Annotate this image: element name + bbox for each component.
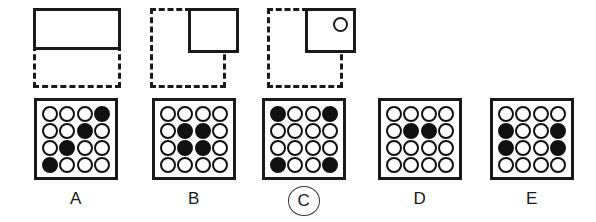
grid-cell: [550, 156, 568, 173]
dot-grid-b[interactable]: [152, 98, 236, 180]
grid-cell: [550, 105, 568, 122]
grid-cell: [420, 139, 438, 156]
grid-cell: [403, 122, 421, 139]
empty-dot-icon: [287, 106, 303, 122]
option-label-c: C: [288, 186, 321, 216]
dot-grid-d[interactable]: [378, 98, 462, 180]
grid-cell: [497, 105, 515, 122]
empty-dot-icon: [160, 140, 176, 156]
empty-dot-icon: [421, 140, 437, 156]
dot-grid-c[interactable]: [262, 98, 346, 180]
empty-dot-icon: [515, 123, 531, 139]
option-label-e: E: [519, 186, 545, 212]
empty-dot-icon: [322, 140, 338, 156]
grid-cell: [59, 122, 77, 139]
grid-cell: [159, 156, 177, 173]
empty-dot-icon: [77, 106, 93, 122]
empty-dot-icon: [42, 123, 58, 139]
empty-dot-icon: [533, 106, 549, 122]
grid-cell: [438, 156, 456, 173]
dot-grid-e[interactable]: [490, 98, 574, 180]
grid-cell: [177, 156, 195, 173]
filled-dot-icon: [403, 123, 419, 139]
grid-cell: [76, 139, 94, 156]
grid-cell: [420, 105, 438, 122]
empty-dot-icon: [59, 123, 75, 139]
empty-dot-icon: [59, 157, 75, 173]
answer-option-d[interactable]: D: [378, 98, 462, 212]
empty-dot-icon: [515, 157, 531, 173]
empty-dot-icon: [533, 140, 549, 156]
empty-dot-icon: [533, 157, 549, 173]
empty-dot-icon: [515, 140, 531, 156]
grid-cell: [497, 122, 515, 139]
option-label-d-wrapper: D: [378, 186, 462, 212]
grid-cell: [269, 105, 287, 122]
grid-cell: [322, 122, 340, 139]
filled-dot-icon: [270, 106, 286, 122]
filled-dot-icon: [550, 140, 566, 156]
grid-cell: [438, 105, 456, 122]
grid-cell: [550, 139, 568, 156]
empty-dot-icon: [533, 123, 549, 139]
grid-cell: [177, 122, 195, 139]
empty-dot-icon: [212, 140, 228, 156]
filled-dot-icon: [177, 123, 193, 139]
empty-dot-icon: [160, 157, 176, 173]
prompt-figures-row: [0, 0, 596, 95]
grid-cell: [41, 122, 59, 139]
filled-dot-icon: [59, 140, 75, 156]
grid-cell: [287, 139, 305, 156]
empty-dot-icon: [515, 106, 531, 122]
option-label-b: B: [181, 186, 207, 212]
answer-option-a[interactable]: A: [34, 98, 118, 212]
empty-dot-icon: [287, 123, 303, 139]
grid-cell: [385, 105, 403, 122]
filled-dot-icon: [498, 123, 514, 139]
prompt-figure-3: [267, 8, 343, 88]
empty-dot-icon: [305, 157, 321, 173]
filled-dot-icon: [177, 140, 193, 156]
empty-dot-icon: [42, 140, 58, 156]
grid-cell: [322, 139, 340, 156]
grid-cell: [269, 156, 287, 173]
empty-dot-icon: [177, 157, 193, 173]
empty-dot-icon: [438, 106, 454, 122]
grid-cell: [322, 105, 340, 122]
answer-option-c[interactable]: C: [262, 98, 346, 212]
prompt-figure-1: [33, 8, 121, 88]
answer-option-b[interactable]: B: [152, 98, 236, 212]
grid-cell: [177, 105, 195, 122]
answer-option-e[interactable]: E: [490, 98, 574, 212]
empty-dot-icon: [287, 140, 303, 156]
grid-cell: [515, 122, 533, 139]
grid-cell: [41, 139, 59, 156]
grid-cell: [59, 156, 77, 173]
empty-dot-icon: [438, 123, 454, 139]
empty-dot-icon: [195, 157, 211, 173]
grid-cell: [269, 139, 287, 156]
grid-cell: [420, 156, 438, 173]
grid-cell: [420, 122, 438, 139]
grid-cell: [94, 105, 112, 122]
empty-dot-icon: [94, 157, 110, 173]
empty-dot-icon: [212, 106, 228, 122]
option-label-e-wrapper: E: [490, 186, 574, 212]
grid-cell: [385, 139, 403, 156]
filled-dot-icon: [322, 106, 338, 122]
grid-cell: [287, 156, 305, 173]
filled-dot-icon: [94, 106, 110, 122]
empty-dot-icon: [403, 106, 419, 122]
empty-dot-icon: [177, 106, 193, 122]
filled-dot-icon: [42, 157, 58, 173]
grid-cell: [287, 122, 305, 139]
grid-cell: [76, 156, 94, 173]
grid-cell: [269, 122, 287, 139]
empty-dot-icon: [94, 123, 110, 139]
dot-grid-a[interactable]: [34, 98, 118, 180]
answer-options-row: A B C D E: [0, 98, 596, 222]
empty-dot-icon: [550, 106, 566, 122]
option-label-a-wrapper: A: [34, 186, 118, 212]
empty-dot-icon: [305, 123, 321, 139]
option-label-a: A: [63, 186, 89, 212]
